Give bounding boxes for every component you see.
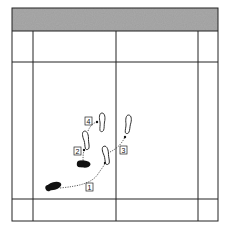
court-header-band (12, 8, 218, 31)
step-number-2: 2 (76, 148, 80, 155)
step-label-1: 1 (86, 183, 93, 191)
footprint-step-3 (102, 146, 111, 165)
step-number-3: 3 (122, 147, 126, 154)
footprint-start-left (44, 180, 62, 192)
step-label-2: 2 (74, 147, 81, 155)
footwork-diagram: 1 2 3 4 (0, 0, 226, 228)
step-label-4: 4 (85, 117, 92, 125)
step-label-3: 3 (120, 146, 127, 154)
footprint-start-right (77, 160, 91, 168)
footprint-step-2 (82, 131, 91, 150)
step-number-4: 4 (87, 118, 91, 125)
court-outer-border (12, 8, 218, 221)
path-step-2-end-dot (83, 149, 85, 151)
footprint-step-4 (99, 113, 105, 132)
step-number-1: 1 (88, 184, 92, 191)
footprint-step-3-target (125, 115, 132, 134)
path-step-3-end-dot (124, 136, 126, 138)
path-step-4-end-dot (96, 121, 98, 123)
